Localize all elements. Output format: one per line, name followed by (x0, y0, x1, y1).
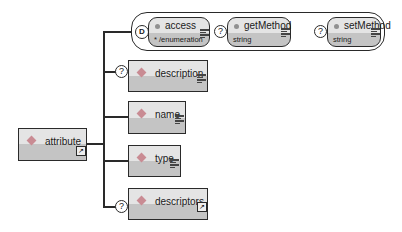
connector-trunk (103, 31, 105, 207)
optional-marker-descriptors: ? (115, 200, 128, 213)
attribute-setmethod[interactable]: setMethod string (327, 17, 381, 47)
optional-marker-setmethod: ? (314, 25, 327, 38)
optional-marker-getmethod: ? (214, 25, 227, 38)
attribute-type: string (233, 35, 251, 44)
connector-name (103, 116, 128, 118)
optional-marker-description: ? (115, 65, 128, 78)
element-diamond-icon (137, 196, 147, 206)
element-diamond-icon (137, 153, 147, 163)
element-diamond-icon (137, 68, 147, 78)
expand-icon[interactable]: ↗ (197, 202, 207, 212)
connector-type (103, 160, 128, 162)
attribute-access[interactable]: access * /enumeration (148, 17, 210, 47)
attribute-type: * /enumeration (154, 35, 203, 44)
attribute-label: setMethod (344, 20, 391, 31)
attribute-dot-icon (155, 24, 160, 29)
attribute-dot-icon (334, 24, 339, 29)
lines-icon (281, 28, 290, 37)
element-type[interactable]: type (128, 145, 181, 177)
expand-icon[interactable]: ↗ (76, 146, 86, 156)
element-diamond-icon (27, 136, 37, 146)
lines-icon (200, 29, 209, 38)
element-description[interactable]: description (128, 60, 208, 92)
lines-icon (197, 74, 206, 83)
attribute-label: access (165, 20, 196, 31)
element-descriptors[interactable]: descriptors ↗ (128, 188, 208, 220)
element-name[interactable]: name (128, 101, 186, 134)
attribute-dot-icon (234, 24, 239, 29)
attribute-type: string (333, 35, 351, 44)
lines-icon (170, 159, 179, 168)
element-diamond-icon (137, 109, 147, 119)
root-element-attribute[interactable]: attribute ↗ (18, 128, 87, 161)
choice-icon: D (135, 25, 149, 39)
lines-icon (175, 115, 184, 124)
attribute-getmethod[interactable]: getMethod string (227, 17, 291, 47)
lines-icon (371, 28, 380, 37)
